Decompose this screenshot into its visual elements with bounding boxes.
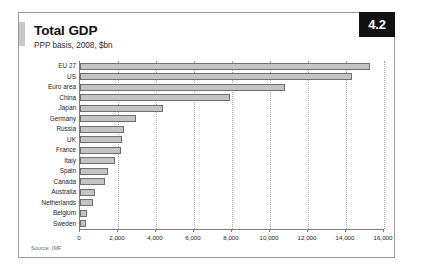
x-axis-tick-label: 16,000 bbox=[374, 234, 393, 241]
x-axis-tick-label: 4,000 bbox=[147, 234, 162, 241]
category-axis: EU 27USEuro areaChinaJapanGermanyRussiaU… bbox=[31, 61, 79, 229]
bar bbox=[80, 94, 230, 101]
x-axis-tick-label: 6,000 bbox=[185, 234, 200, 241]
x-axis-tick bbox=[155, 229, 156, 232]
bar bbox=[80, 147, 121, 154]
bar bbox=[80, 115, 136, 122]
bar bbox=[80, 220, 86, 227]
x-axis-tick-label: 2,000 bbox=[109, 234, 124, 241]
bar bbox=[80, 157, 115, 164]
category-label: Belgium bbox=[53, 210, 76, 216]
x-axis-tick bbox=[307, 229, 308, 232]
bar bbox=[80, 73, 352, 80]
bars-container bbox=[79, 61, 383, 229]
bar bbox=[80, 189, 95, 196]
category-label: Euro area bbox=[48, 84, 76, 90]
x-axis-tick bbox=[193, 229, 194, 232]
chart-plot-area: EU 27USEuro areaChinaJapanGermanyRussiaU… bbox=[31, 61, 383, 246]
gridline bbox=[384, 61, 385, 229]
category-label: US bbox=[67, 74, 76, 80]
category-label: Russia bbox=[56, 126, 76, 132]
bar bbox=[80, 63, 370, 70]
x-axis-tick-label: 0 bbox=[77, 234, 80, 241]
category-label: France bbox=[56, 147, 76, 153]
category-label: EU 27 bbox=[58, 63, 76, 69]
x-axis-tick bbox=[269, 229, 270, 232]
x-axis-tick bbox=[345, 229, 346, 232]
x-axis-tick bbox=[383, 229, 384, 232]
accent-bar bbox=[19, 22, 25, 46]
x-axis-tick bbox=[79, 229, 80, 232]
bar bbox=[80, 84, 285, 91]
bar bbox=[80, 178, 105, 185]
category-label: Canada bbox=[54, 179, 76, 185]
bar bbox=[80, 126, 124, 133]
category-label: Spain bbox=[60, 168, 76, 174]
category-label: UK bbox=[67, 137, 76, 143]
source-note: Source: IMF bbox=[31, 245, 61, 251]
category-label: Italy bbox=[64, 158, 76, 164]
page-title: Total GDP bbox=[34, 23, 97, 38]
bar bbox=[80, 136, 122, 143]
x-axis-tick-label: 10,000 bbox=[260, 234, 279, 241]
category-label: Netherlands bbox=[42, 200, 76, 206]
chart-subtitle: PPP basis, 2008, $bn bbox=[34, 41, 113, 50]
figure-number-badge: 4.2 bbox=[359, 12, 395, 37]
bar bbox=[80, 199, 93, 206]
bar bbox=[80, 105, 163, 112]
category-label: China bbox=[59, 95, 76, 101]
category-label: Sweden bbox=[53, 221, 76, 227]
bar bbox=[80, 168, 108, 175]
gridline bbox=[308, 61, 309, 229]
gridline bbox=[346, 61, 347, 229]
x-axis-tick bbox=[117, 229, 118, 232]
chart-card: Total GDP PPP basis, 2008, $bn 4.2 EU 27… bbox=[18, 12, 395, 258]
x-axis-tick-label: 8,000 bbox=[223, 234, 238, 241]
category-label: Australia bbox=[51, 189, 76, 195]
x-axis-tick-label: 12,000 bbox=[298, 234, 317, 241]
x-axis-tick bbox=[231, 229, 232, 232]
category-label: Germany bbox=[50, 116, 76, 122]
x-axis-tick-label: 14,000 bbox=[336, 234, 355, 241]
category-label: Japan bbox=[59, 105, 76, 111]
bar bbox=[80, 210, 87, 217]
